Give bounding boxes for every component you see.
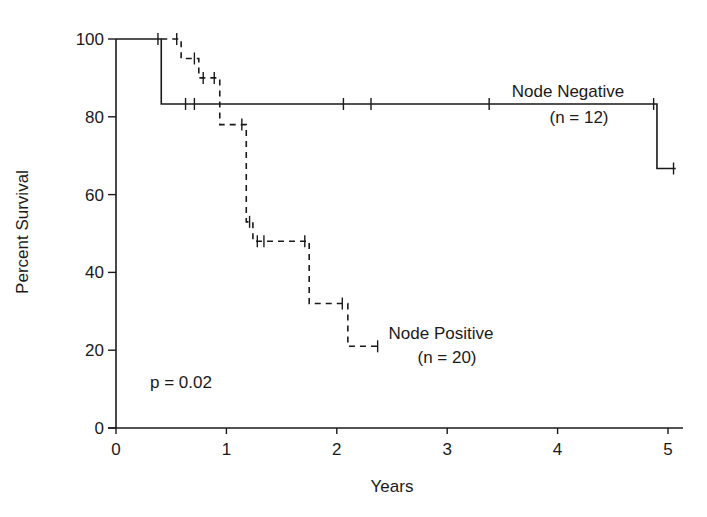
node-positive-label: Node Positive [389,324,494,343]
node-negative-curve [116,39,676,169]
survival-chart: 020406080100012345 Years Percent Surviva… [0,0,707,517]
x-tick-label: 3 [442,440,451,459]
y-axis-title: Percent Survival [13,170,32,294]
survival-curves [116,33,676,352]
node-negative-label: Node Negative [512,82,624,101]
y-tick-label: 20 [85,341,104,360]
x-axis-title: Years [371,477,414,496]
node-negative-n-label: (n = 12) [549,108,608,127]
x-tick-label: 5 [663,440,672,459]
x-tick-label: 2 [332,440,341,459]
y-tick-label: 100 [76,30,104,49]
y-tick-label: 40 [85,263,104,282]
y-tick-label: 60 [85,186,104,205]
x-tick-label: 1 [222,440,231,459]
y-tick-label: 0 [95,419,104,438]
x-tick-label: 0 [111,440,120,459]
y-tick-label: 80 [85,108,104,127]
x-tick-label: 4 [553,440,562,459]
p-value-annotation: p = 0.02 [150,373,212,392]
chart-canvas: 020406080100012345 Years Percent Surviva… [0,0,707,517]
node-positive-n-label: (n = 20) [417,348,476,367]
node-positive-curve [161,39,377,346]
